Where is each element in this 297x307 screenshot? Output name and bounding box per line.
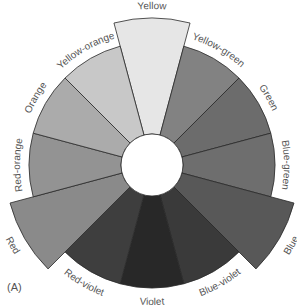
color-wheel: YellowYellow-greenGreenBlue-greenBlueBlu…: [0, 0, 297, 307]
label-yellow: Yellow: [137, 0, 168, 12]
label-red-orange: Red-orange: [11, 137, 25, 193]
label-violet: Violet: [139, 295, 164, 307]
center-hole: [121, 134, 183, 196]
label-blue: Blue: [281, 234, 297, 257]
panel-label: (A): [7, 281, 22, 293]
label-blue-green: Blue-green: [280, 139, 293, 191]
label-red: Red: [4, 235, 23, 256]
